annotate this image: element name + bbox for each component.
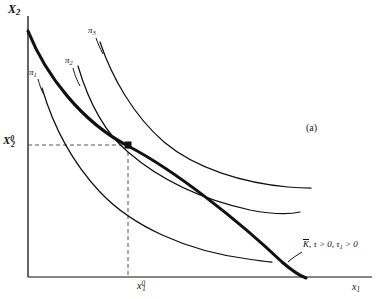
pi-1-leader-line: [38, 79, 43, 93]
budget-constraint-annotation: K, τ > 0, τ1 > 0: [303, 240, 358, 250]
curve-label-pi-3: π3: [88, 26, 96, 36]
indifference-curve-pi-2: [78, 66, 300, 214]
x-axis-label: x1: [352, 282, 360, 294]
optimum-point-marker: [125, 142, 132, 149]
figure-canvas: [0, 0, 379, 299]
y-axis-label: X2: [8, 3, 20, 17]
indifference-curve-pi-1: [42, 88, 272, 262]
budget-annotation-leader-line: [288, 252, 302, 262]
panel-label: (a): [306, 123, 317, 133]
k-bar-symbol: K: [303, 240, 309, 249]
curve-label-pi-1: π1: [29, 68, 37, 78]
indifference-curve-figure: X2 x1 X02 x01 π1 π2 π3 (a) K, τ > 0, τ1 …: [0, 0, 379, 299]
indifference-curve-pi-3: [100, 42, 311, 188]
y-axis-tick-x2-zero: X02: [3, 135, 15, 148]
budget-constraint-curve: [28, 31, 306, 278]
curve-label-pi-2: π2: [65, 56, 73, 66]
x-axis-tick-x1-zero: x01: [137, 281, 146, 293]
